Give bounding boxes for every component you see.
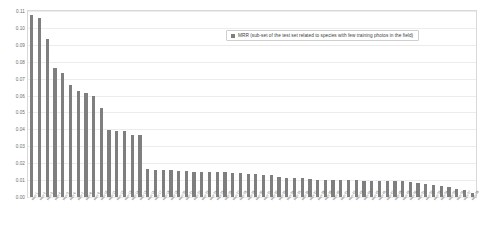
bar	[61, 73, 64, 197]
bar	[46, 39, 49, 197]
bar	[131, 135, 134, 197]
bar	[30, 15, 33, 197]
y-axis-tick-label: 0.02	[16, 161, 25, 166]
y-axis-tick-label: 0.08	[16, 59, 25, 64]
bar	[138, 135, 141, 197]
y-axis-tick-label: 0.01	[16, 178, 25, 183]
y-axis-tick-label: 0.04	[16, 127, 25, 132]
y-axis-tick-label: 0.10	[16, 25, 25, 30]
plot-area: 0.000.010.020.030.040.050.060.070.080.09…	[27, 10, 477, 198]
bar	[84, 93, 87, 197]
bar	[77, 91, 80, 197]
y-axis-tick-label: 0.06	[16, 93, 25, 98]
bar	[123, 131, 126, 197]
y-axis-tick-label: 0.03	[16, 144, 25, 149]
y-axis-tick-label: 0.11	[16, 9, 25, 14]
chart-screenshot: 0.000.010.020.030.040.050.060.070.080.09…	[0, 0, 480, 238]
y-axis-tick-label: 0.00	[16, 195, 25, 200]
legend-label: MRR (sub-set of the test set related to …	[238, 33, 413, 38]
bar	[100, 108, 103, 197]
bar	[53, 68, 56, 197]
x-axis-labels: Run 1Run 2Run 3Run 4Run 5Run 6Run 7Run 8…	[27, 199, 477, 238]
y-axis-tick-label: 0.07	[16, 76, 25, 81]
y-axis-tick-label: 0.09	[16, 42, 25, 47]
y-axis-tick-label: 0.05	[16, 110, 25, 115]
bar	[69, 85, 72, 197]
bar	[107, 130, 110, 197]
chart-legend: MRR (sub-set of the test set related to …	[226, 30, 419, 41]
bar	[38, 18, 41, 197]
bar	[115, 131, 118, 197]
legend-swatch-icon	[231, 34, 235, 38]
bar	[92, 96, 95, 197]
